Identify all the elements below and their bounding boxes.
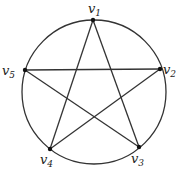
label-v3: v3 (131, 151, 144, 168)
edge-v2-v5 (25, 69, 160, 70)
edge-v5-v3 (25, 70, 139, 147)
vertex-labels: v1v2v3v4v5 (2, 1, 176, 169)
vertex-v2 (158, 67, 162, 71)
label-v4: v4 (40, 152, 53, 169)
outer-circle (22, 20, 166, 164)
vertex-v5 (23, 68, 27, 72)
edge-v1-v4 (50, 20, 93, 149)
label-v1: v1 (88, 1, 101, 18)
vertex-v3 (137, 145, 141, 149)
pentagram-graph: v1v2v3v4v5 (0, 0, 182, 174)
edge-v2-v4 (50, 69, 160, 149)
vertex-v1 (91, 18, 95, 22)
label-v5: v5 (2, 63, 15, 80)
vertex-v4 (48, 147, 52, 151)
label-v2: v2 (163, 62, 176, 79)
edge-v1-v3 (93, 20, 139, 147)
